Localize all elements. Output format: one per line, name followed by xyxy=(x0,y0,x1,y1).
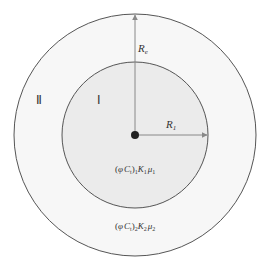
center-dot xyxy=(131,131,139,139)
region-label-inner: Ⅰ xyxy=(97,93,101,107)
radial-composite-diagram: Ⅱ Ⅰ Re R1 (φCt)1K1μ1 (φCt)2K2μ2 xyxy=(0,0,269,264)
region-label-outer: Ⅱ xyxy=(36,93,42,107)
